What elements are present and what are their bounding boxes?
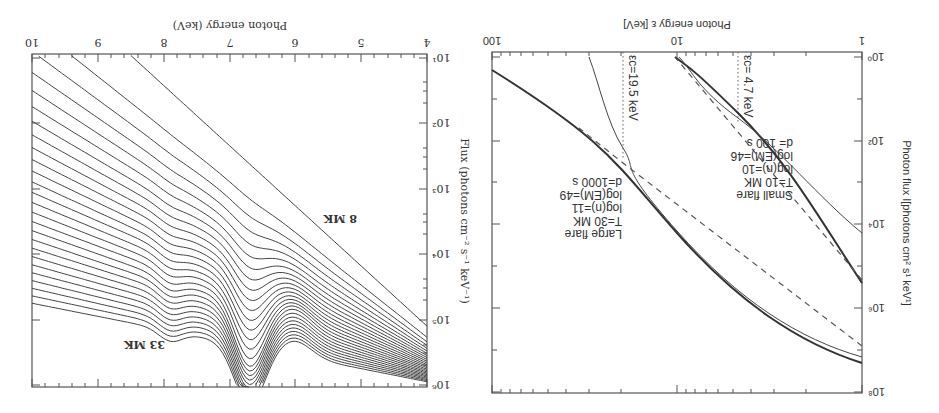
x-tick-labels: 4 5 6 7 8 9 10: [25, 36, 431, 49]
x-axis-ticks: [492, 52, 862, 393]
thermal-curve: [32, 54, 427, 342]
thermal-curve: [32, 202, 427, 366]
svg-text:10⁵: 10⁵: [432, 313, 450, 326]
svg-text:T=30 MK: T=30 MK: [573, 214, 622, 228]
rotated-figure: 4 5 6 7 8 9 10 Photon energy (keV) 10⁶ 1…: [0, 0, 939, 413]
y-axis-title: Photon flux I[photons cm² s¹ keV¹]: [901, 140, 913, 306]
svg-text:log(n)=11: log(n)=11: [572, 201, 622, 215]
svg-text:10⁶: 10⁶: [431, 378, 450, 391]
ec-small-label: εc= 4.7 keV: [741, 55, 755, 117]
svg-text:9: 9: [95, 36, 102, 49]
svg-text:1: 1: [859, 35, 865, 47]
svg-text:log(EM)=49: log(EM)=49: [559, 188, 622, 202]
svg-text:7: 7: [227, 36, 234, 49]
svg-text:Large flare: Large flare: [564, 227, 622, 241]
svg-text:10³: 10³: [432, 182, 450, 195]
svg-text:log(EM)=46: log(EM)=46: [730, 149, 793, 163]
y-tick-labels: 10⁸ 10⁶ 10⁴ 10² 10⁰: [867, 51, 885, 398]
label-33mk: 33 MK: [124, 338, 165, 351]
thermal-curve: [32, 171, 427, 361]
svg-text:d=1000 s: d=1000 s: [572, 175, 622, 189]
svg-text:10⁸: 10⁸: [868, 386, 885, 398]
svg-text:10²: 10²: [432, 116, 450, 129]
svg-text:10²: 10²: [868, 135, 884, 147]
large-flare-annotation: Large flare T=30 MK log(n)=11 log(EM)=49…: [559, 175, 622, 241]
y-tick-labels: 10⁶ 10⁵ 10⁴ 10³ 10² 10¹: [431, 51, 450, 391]
plot-frame: [492, 52, 862, 393]
thermal-curve-family: [32, 54, 427, 387]
svg-text:T=10 MK: T=10 MK: [744, 175, 793, 189]
svg-text:10⁰: 10⁰: [867, 51, 884, 63]
ec-large-label: εc=19.5 keV: [626, 55, 640, 121]
svg-text:5: 5: [358, 36, 365, 49]
thermal-curve: [32, 240, 427, 373]
thermal-curve: [32, 91, 427, 349]
y-axis-title: Flux (photons cm⁻² s⁻¹ keV⁻¹): [458, 138, 471, 304]
svg-text:10⁶: 10⁶: [868, 302, 885, 314]
svg-text:100: 100: [483, 35, 501, 47]
x-axis-ticks: [32, 54, 427, 387]
svg-text:log(n)=10: log(n)=10: [742, 162, 793, 176]
large-flare-thermal: [492, 70, 862, 363]
svg-text:6: 6: [292, 36, 299, 49]
svg-text:Small flare: Small flare: [736, 188, 793, 202]
plot-frame: [32, 54, 427, 387]
svg-text:10: 10: [25, 36, 39, 49]
svg-text:10¹: 10¹: [432, 51, 450, 64]
svg-text:8: 8: [161, 36, 168, 49]
svg-text:10⁴: 10⁴: [431, 247, 450, 260]
label-8mk: 8 MK: [323, 212, 357, 225]
figure-canvas: 4 5 6 7 8 9 10 Photon energy (keV) 10⁶ 1…: [0, 0, 939, 413]
thermal-spectra-chart: 4 5 6 7 8 9 10 Photon energy (keV) 10⁶ 1…: [25, 19, 471, 391]
small-flare-annotation: Small flare T=10 MK log(n)=10 log(EM)=46…: [730, 136, 793, 202]
thermal-curve: [32, 107, 427, 351]
svg-text:10⁴: 10⁴: [868, 218, 885, 230]
x-axis-title: Photon energy (keV): [173, 19, 288, 32]
flare-spectra-chart: 1 10 100 Photon energy ε [keV] 10⁸ 10⁶ 1…: [483, 19, 913, 398]
x-tick-labels: 1 10 100: [483, 35, 865, 47]
svg-text:4: 4: [424, 36, 431, 49]
x-axis-title: Photon energy ε [keV]: [623, 19, 731, 31]
svg-text:d= 100 s: d= 100 s: [747, 136, 793, 150]
svg-text:10: 10: [671, 35, 683, 47]
